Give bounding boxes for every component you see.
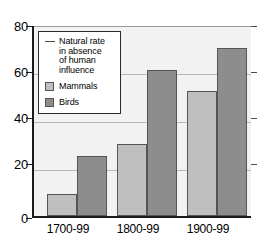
legend-label-mammals: Mammals	[59, 81, 97, 92]
legend-item-natural-rate: Natural rate in absence of human influen…	[45, 37, 113, 75]
right-tick-mark-80	[251, 26, 257, 27]
y-axis-label-60: 60	[0, 66, 28, 79]
right-tick-mark-20	[251, 164, 257, 165]
legend-label-natural-rate: Natural rate in absence of human influen…	[59, 37, 105, 75]
legend-natural-rate-line-1: Natural rate	[59, 36, 105, 46]
gridline-80	[34, 26, 251, 27]
legend-natural-rate-line-2: in absence	[59, 46, 102, 56]
bar-mammals-1900-99	[187, 91, 217, 216]
bar-mammals-1800-99	[117, 144, 147, 216]
y-axis-label-20: 20	[0, 158, 28, 171]
mammals-swatch-icon	[45, 82, 54, 91]
line-marker-icon	[45, 37, 55, 46]
bar-birds-1800-99	[147, 70, 177, 216]
bar-mammals-1700-99	[47, 194, 77, 216]
y-axis-label-40: 40	[0, 112, 28, 125]
legend-natural-rate-line-4: influence	[59, 65, 94, 75]
right-tick-mark-40	[251, 118, 257, 119]
legend-item-mammals: Mammals	[45, 81, 113, 92]
bar-birds-1900-99	[217, 48, 247, 216]
y-axis-label-80: 80	[0, 20, 28, 33]
x-axis-label-1800-99: 1800-99	[101, 223, 175, 235]
legend-natural-rate-line-3: of human	[59, 55, 96, 65]
y-tick-mark-0	[26, 218, 32, 219]
legend-label-birds: Birds	[59, 97, 79, 108]
legend-item-birds: Birds	[45, 97, 113, 108]
bar-birds-1700-99	[77, 156, 107, 216]
birds-swatch-icon	[45, 98, 54, 107]
x-axis-label-1900-99: 1900-99	[171, 223, 245, 235]
right-tick-mark-60	[251, 72, 257, 73]
x-axis-label-1700-99: 1700-99	[31, 223, 105, 235]
y-axis-label-0: 0	[0, 212, 28, 225]
chart-legend: Natural rate in absence of human influen…	[38, 31, 121, 114]
bar-chart: 80 60 40 20 0 1700-99 1800-99 1900-99	[0, 0, 266, 247]
